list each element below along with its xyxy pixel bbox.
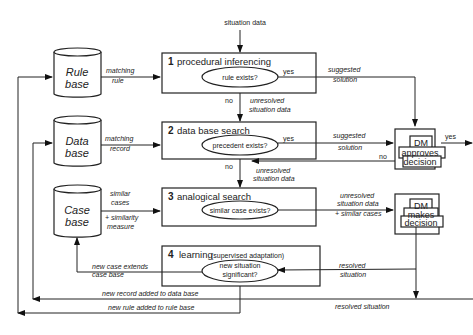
case-base-line2: base xyxy=(65,216,89,228)
edge-label: unresolved xyxy=(256,167,291,174)
edge-label: situation data xyxy=(337,200,379,207)
stage-subtitle: (supervised adaptation) xyxy=(211,252,284,260)
edge-label: similar xyxy=(110,190,131,197)
stage-title: analogical search xyxy=(177,191,251,202)
edge-label: rule xyxy=(112,77,124,84)
input-label: situation data xyxy=(224,19,266,26)
edge-label: solution xyxy=(333,76,357,83)
edge-label: situation data xyxy=(253,175,295,182)
edge-label: cases xyxy=(111,199,130,206)
stage-number: 4 xyxy=(168,249,174,260)
stage-4-box: 4 learning (supervised adaptation) new s… xyxy=(162,246,320,286)
edge-label: situation xyxy=(340,271,366,278)
case-base-line1: Case xyxy=(64,204,90,216)
dm-makes-box: DM makes decision xyxy=(395,194,443,234)
decision-text: precedent exists? xyxy=(213,142,268,150)
decision-text: new situation xyxy=(220,262,261,269)
edge-label: record xyxy=(110,145,131,152)
edge-label: case base xyxy=(92,271,124,278)
edge-label: matching xyxy=(105,135,134,143)
decision-text: rule exists? xyxy=(222,74,258,81)
data-base-store: Data base xyxy=(54,116,101,166)
edge-label: + similarity xyxy=(105,214,139,222)
edge-label: matching xyxy=(106,67,135,75)
decision-text: similar case exists? xyxy=(210,207,271,214)
edge-label: suggested xyxy=(328,66,361,74)
rule-base-store: Rule base xyxy=(54,48,101,97)
edge-label: suggested xyxy=(333,132,366,140)
knowledge-flow-diagram: situation data Rule base matching rule D… xyxy=(0,0,473,335)
data-base-line2: base xyxy=(65,147,89,159)
edge-label: new case extends xyxy=(92,263,149,270)
rule-base-line2: base xyxy=(65,78,89,90)
data-base-line1: Data xyxy=(65,135,88,147)
edge-label: resolved xyxy=(339,262,367,269)
edge-label: + similar cases xyxy=(335,210,382,217)
edge-label: unresolved xyxy=(340,192,375,199)
yes-label: yes xyxy=(445,133,456,141)
dm-text: DM xyxy=(414,138,428,148)
rule-to-rulebase-arrow xyxy=(18,77,52,313)
stage-title: procedural inferencing xyxy=(177,56,271,67)
no-label: no xyxy=(225,97,233,104)
stage-title: data base search xyxy=(177,125,250,136)
feedback-label: new rule added to rule base xyxy=(108,304,194,311)
stage-number: 1 xyxy=(168,56,174,67)
edge-label: measure xyxy=(107,223,134,230)
no-label: no xyxy=(225,163,233,170)
stage-3-box: 3 analogical search similar case exists? xyxy=(162,188,316,226)
record-to-database-arrow xyxy=(33,143,52,299)
yes-label: yes xyxy=(283,68,294,76)
edge-label: unresolved xyxy=(250,97,285,104)
rule-base-line1: Rule xyxy=(66,66,89,78)
stage-number: 3 xyxy=(168,191,174,202)
feedback-label: new record added to data base xyxy=(102,290,199,297)
stage-number: 2 xyxy=(168,125,174,136)
feedback-label: resolved situation xyxy=(335,303,390,310)
edge-label: situation data xyxy=(249,106,291,113)
dm-approves-box: DM approves decision xyxy=(395,129,445,169)
dm-text: decision xyxy=(404,218,437,228)
stage-title: learning xyxy=(179,249,213,260)
decision-text: significant? xyxy=(222,271,257,279)
yes-label: yes xyxy=(283,135,294,143)
edge-label: solution xyxy=(338,144,362,151)
case-base-store: Case base xyxy=(54,185,101,237)
no-label: no xyxy=(379,153,387,160)
dm-text: decision xyxy=(403,157,436,167)
